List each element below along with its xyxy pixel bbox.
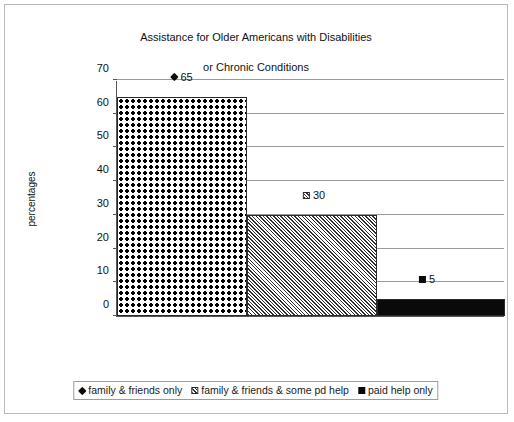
y-tick-label-50: 50 xyxy=(97,129,109,141)
solid-square-marker-icon xyxy=(419,276,426,283)
chart-title-line-2: or Chronic Conditions xyxy=(5,60,507,75)
y-axis-title: percentages xyxy=(26,171,37,226)
solid-square-marker-icon xyxy=(358,387,365,394)
legend-label-1: family & friends only xyxy=(88,384,182,397)
data-label-bar-3: 5 xyxy=(419,273,435,285)
y-tick-label-30: 30 xyxy=(97,197,109,209)
chart-legend: family & friends only family & friends &… xyxy=(73,381,438,400)
y-tick-label-0: 0 xyxy=(103,298,109,310)
bar-family-friends-some-paid-help[interactable] xyxy=(247,215,377,316)
legend-label-3: paid help only xyxy=(368,384,433,397)
y-tick-label-20: 20 xyxy=(97,231,109,243)
diamond-marker-icon xyxy=(78,386,86,394)
plot-area: 70 60 50 40 30 20 10 0 65 30 xyxy=(116,81,504,317)
legend-item-paid-help-only[interactable]: paid help only xyxy=(358,384,433,397)
data-label-bar-2: 30 xyxy=(303,189,325,201)
data-label-value-2: 30 xyxy=(313,189,325,201)
legend-item-family-friends-only[interactable]: family & friends only xyxy=(79,384,182,397)
legend-label-2: family & friends & some pd help xyxy=(201,384,349,397)
chart-frame: Assistance for Older Americans with Disa… xyxy=(4,4,508,414)
data-label-bar-1: 65 xyxy=(171,71,192,83)
y-tick-label-40: 40 xyxy=(97,163,109,175)
tick-70 xyxy=(113,79,117,80)
y-tick-label-10: 10 xyxy=(97,264,109,276)
y-tick-label-60: 60 xyxy=(97,96,109,108)
bar-paid-help-only[interactable] xyxy=(377,299,505,316)
diamond-marker-icon xyxy=(170,73,178,81)
legend-item-family-friends-some-paid-help[interactable]: family & friends & some pd help xyxy=(191,384,349,397)
hatched-square-marker-icon xyxy=(303,192,310,199)
y-tick-label-70: 70 xyxy=(97,62,109,74)
bar-family-friends-only[interactable] xyxy=(117,97,247,316)
chart-title-line-1: Assistance for Older Americans with Disa… xyxy=(5,30,507,45)
data-label-value-1: 65 xyxy=(180,71,192,83)
hatched-square-marker-icon xyxy=(191,387,198,394)
data-label-value-3: 5 xyxy=(429,273,435,285)
